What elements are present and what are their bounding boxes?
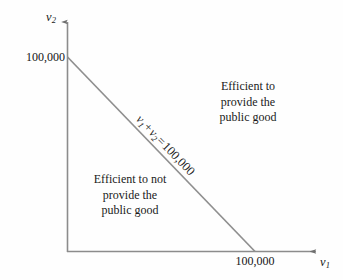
region-note-not-provide-line1: Efficient to not [94, 172, 166, 186]
region-note-provide: Efficient to provide the public good [190, 79, 306, 126]
region-note-provide-line1: Efficient to [221, 79, 275, 93]
x-axis-label-var: v [320, 255, 326, 269]
y-axis-label: v2 [46, 10, 56, 25]
region-note-provide-line2: provide the [221, 95, 275, 109]
efficiency-frontier-figure: v2 v1 100,000 100,000 Efficient to provi… [0, 0, 343, 280]
x-axis-label-subscript: 1 [326, 260, 330, 270]
y-axis-tick-label: 100,000 [11, 50, 65, 65]
x-axis-label: v1 [320, 255, 330, 270]
plot-canvas [0, 0, 343, 280]
region-note-not-provide: Efficient to not provide the public good [70, 172, 190, 219]
region-note-not-provide-line2: provide the [103, 188, 157, 202]
region-note-provide-line3: public good [220, 110, 277, 124]
x-axis-tick-label: 100,000 [224, 254, 286, 269]
y-axis-label-var: v [46, 10, 52, 24]
y-axis-label-subscript: 2 [52, 15, 56, 25]
region-note-not-provide-line3: public good [102, 203, 159, 217]
